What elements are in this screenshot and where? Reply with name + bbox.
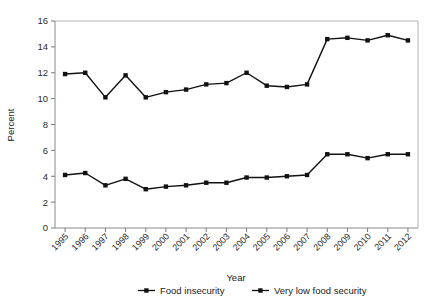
data-point: [83, 171, 87, 175]
data-point: [123, 177, 127, 181]
data-point: [265, 175, 269, 179]
data-point: [406, 38, 410, 42]
series-line-path: [65, 154, 408, 189]
y-tick-label: 0: [43, 222, 48, 233]
y-axis-ticks: 0246810121416: [37, 15, 55, 233]
x-tick-label: 2003: [211, 231, 232, 252]
legend-item-2: Very low food security: [252, 285, 367, 296]
data-point: [406, 152, 410, 156]
x-tick-label: 2007: [291, 231, 312, 252]
x-tick-label: 1998: [110, 231, 131, 252]
y-tick-label: 2: [43, 197, 48, 208]
y-tick-label: 16: [37, 15, 48, 26]
x-tick-label: 2002: [190, 231, 211, 252]
data-point: [144, 187, 148, 191]
data-point: [325, 37, 329, 41]
data-point: [63, 173, 67, 177]
legend-item-1: Food insecurity: [138, 285, 225, 296]
y-tick-label: 10: [37, 93, 48, 104]
y-tick-label: 14: [37, 41, 48, 52]
data-point: [345, 152, 349, 156]
x-tick-label: 2010: [352, 231, 373, 252]
data-point: [265, 83, 269, 87]
x-axis-ticks: 1995199619971998199920002001200220032004…: [49, 228, 413, 253]
x-tick-label: 2009: [332, 231, 353, 252]
data-point: [365, 38, 369, 42]
x-axis-title: Year: [226, 272, 245, 283]
plot-frame: [55, 21, 418, 228]
data-point: [244, 71, 248, 75]
series-layer: [63, 33, 410, 191]
x-tick-label: 2004: [231, 231, 252, 252]
chart-container: 0246810121416 19951996199719981999200020…: [0, 0, 439, 304]
plot-border: [55, 21, 418, 228]
x-tick-label: 1995: [49, 231, 70, 252]
x-tick-label: 1996: [69, 231, 90, 252]
data-point: [164, 90, 168, 94]
data-point: [345, 36, 349, 40]
data-point: [83, 71, 87, 75]
data-point: [204, 181, 208, 185]
x-tick-label: 2008: [311, 231, 332, 252]
data-point: [386, 152, 390, 156]
x-tick-label: 2001: [170, 231, 191, 252]
y-tick-label: 6: [43, 145, 48, 156]
data-point: [164, 184, 168, 188]
y-tick-label: 8: [43, 119, 48, 130]
data-point: [325, 152, 329, 156]
x-tick-label: 2000: [150, 231, 171, 252]
data-point: [305, 173, 309, 177]
data-point: [103, 95, 107, 99]
x-tick-label: 1997: [90, 231, 111, 252]
data-point: [103, 183, 107, 187]
series-line-path: [65, 35, 408, 97]
y-axis-title: Percent: [5, 108, 16, 141]
legend-marker: [144, 288, 148, 292]
legend-label: Very low food security: [274, 285, 367, 296]
legend-marker: [258, 288, 262, 292]
chart-legend: Food insecurityVery low food security: [138, 285, 367, 296]
series-1: [63, 33, 410, 100]
data-point: [305, 82, 309, 86]
data-point: [63, 72, 67, 76]
line-chart: 0246810121416 19951996199719981999200020…: [0, 0, 439, 304]
data-point: [224, 181, 228, 185]
x-tick-label: 2006: [271, 231, 292, 252]
y-tick-label: 12: [37, 67, 48, 78]
data-point: [184, 87, 188, 91]
series-2: [63, 152, 410, 191]
plot-axes: [55, 21, 418, 228]
data-point: [244, 175, 248, 179]
x-tick-label: 2005: [251, 231, 272, 252]
data-point: [386, 33, 390, 37]
x-tick-label: 2012: [392, 231, 413, 252]
data-point: [285, 174, 289, 178]
x-tick-label: 2011: [372, 231, 393, 252]
data-point: [144, 95, 148, 99]
x-tick-label: 1999: [130, 231, 151, 252]
data-point: [184, 183, 188, 187]
legend-label: Food insecurity: [160, 285, 225, 296]
data-point: [123, 73, 127, 77]
y-tick-label: 4: [43, 171, 48, 182]
data-point: [204, 82, 208, 86]
data-point: [285, 85, 289, 89]
data-point: [224, 81, 228, 85]
data-point: [365, 156, 369, 160]
